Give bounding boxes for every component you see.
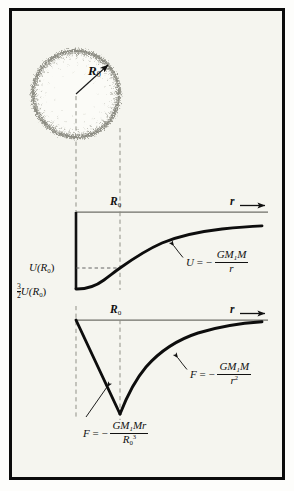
lower-inner-leader-line xyxy=(86,387,107,417)
sphere-radius-label: R0 xyxy=(88,64,101,79)
upper-level-label-UR0: U(R0) xyxy=(29,262,54,275)
lower-outer-fraction: GM1M r2 xyxy=(217,361,251,386)
upper-equation-fraction: GM1M r xyxy=(215,249,249,274)
sphere-group xyxy=(31,49,120,138)
upper-level-label-3half-UR0: 3 2 U(R0) xyxy=(17,283,46,299)
upper-axis-r-label: r xyxy=(230,196,234,208)
upper-R0-tick-label: R0 xyxy=(110,196,121,209)
upper-curve-equation: U = − GM1M r xyxy=(186,249,248,274)
lower-axis-r-label: r xyxy=(230,304,234,316)
lower-outer-equation: F = − GM1M r2 xyxy=(190,361,251,386)
lower-R0-tick-label: R0 xyxy=(110,304,121,317)
lower-outer-leader-line xyxy=(178,358,187,370)
upper-leader-line xyxy=(174,246,183,258)
lower-inner-equation: F = − GM1Mr R03 xyxy=(83,420,148,447)
lower-inner-fraction: GM1Mr R03 xyxy=(110,420,148,447)
physics-figure: R0 R0 r U(R0) 3 2 U(R0) U = − GM1M r R0 … xyxy=(0,0,294,491)
figure-drawing xyxy=(0,0,294,491)
